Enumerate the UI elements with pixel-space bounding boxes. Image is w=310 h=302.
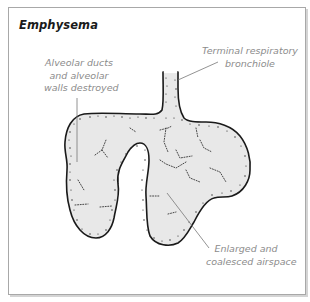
label-terminal-bronchiole: Terminal respiratory bronchiole [200,45,300,70]
alveolar-sac-outline [65,72,250,245]
label-enlarged-airspace: Enlarged and coalesced airspace [206,243,286,268]
label-line: Terminal respiratory [200,45,300,58]
label-alveolar-ducts: Alveolar ducts and alveolar walls destro… [44,57,114,95]
label-line: walls destroyed [44,82,114,95]
label-line: Alveolar ducts [44,57,114,70]
label-line: bronchiole [200,58,300,71]
label-line: coalesced airspace [206,256,286,269]
label-line: Enlarged and [206,243,286,256]
label-line: and alveolar [44,70,114,83]
